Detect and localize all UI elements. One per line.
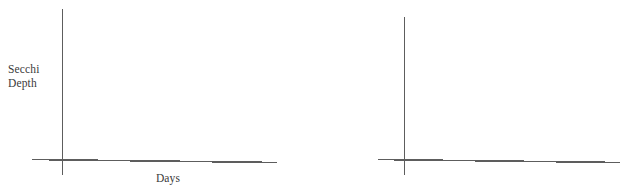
secchi-x-axis-label: Days [120, 171, 216, 185]
secchi-x-axis-line [32, 160, 277, 163]
secchi-y-axis-label: Secchi Depth [8, 62, 56, 90]
chart-panel-secchi-depth: Secchi Depth Days [0, 0, 318, 195]
chart-panel-dissolved-oxygen: Dissolved O2 Days [318, 0, 635, 195]
secchi-y-axis-label-line1: Secchi [8, 63, 40, 75]
dissolved-oxygen-x-axis-line [378, 160, 620, 163]
blank-axes-figure: Secchi Depth Days Dissolved O2 Days [0, 0, 635, 195]
secchi-y-axis-label-line2: Depth [8, 76, 56, 90]
secchi-axes-graphic [0, 0, 318, 195]
dissolved-oxygen-axes-graphic [318, 0, 635, 195]
